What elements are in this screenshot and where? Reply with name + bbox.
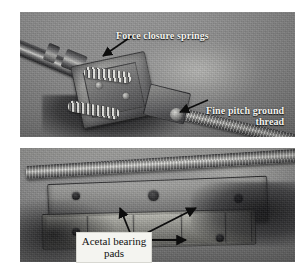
bottom-photo-panel [20,148,295,262]
label-fine-pitch-ground-thread: Fine pitch ground thread [206,105,284,127]
label-fine-pitch-line1: Fine pitch ground [206,105,284,116]
label-force-closure-springs: Force closure springs [116,30,209,41]
adjustment-knob [170,108,183,121]
label-acetal-bearing-pads: Acetal bearing pads [76,232,152,263]
label-acetal-line2: pads [79,247,149,259]
dark-region-top-right [191,182,296,246]
fixing-hole [148,190,159,201]
label-fine-pitch-line2: thread [206,116,284,127]
fixing-hole [72,192,80,200]
label-acetal-line1: Acetal bearing [79,235,149,247]
figure-container: Force closure springs Fine pitch ground … [0,0,308,277]
